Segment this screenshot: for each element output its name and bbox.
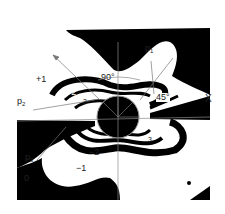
fringe-plus1-label: +1 xyxy=(36,75,46,84)
fringe-minus2-label: −2 xyxy=(89,148,99,157)
fringe-pattern-diagram xyxy=(0,0,225,214)
fringe-minus3-label: 3 xyxy=(148,136,152,143)
point-p3-label: p3 xyxy=(25,153,33,163)
fringe-plus3-label: 3 xyxy=(83,98,87,105)
angle-90-label: 90° xyxy=(101,73,115,82)
fringe-plus2-label: +2 xyxy=(66,88,76,97)
point-p1-label: p1 xyxy=(145,44,153,54)
x-axis-label: X xyxy=(205,94,212,104)
point-p2-label: p2 xyxy=(17,97,25,107)
fringe-zero-label: 0 xyxy=(24,174,29,183)
fringe-minus1-label: −1 xyxy=(76,164,86,173)
angle-45-label: 45° xyxy=(156,93,170,102)
